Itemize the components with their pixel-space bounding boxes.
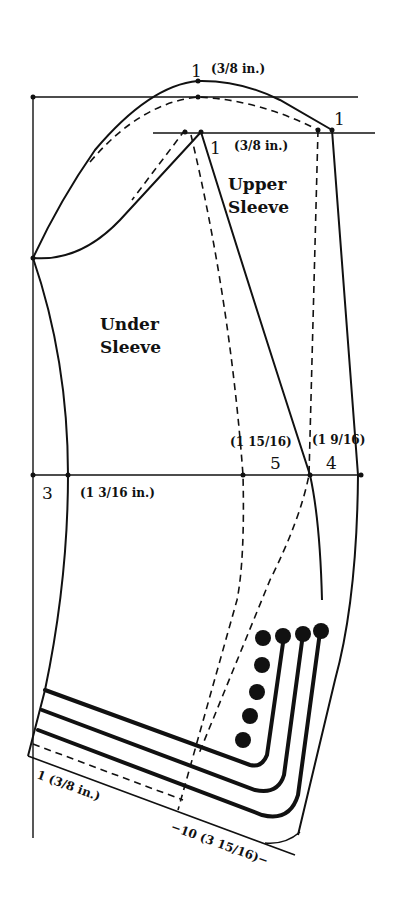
upper-sleeve-label-1: Upper bbox=[228, 174, 287, 194]
elbow-mid-measure: (1 15/16) bbox=[230, 435, 292, 449]
button-dot bbox=[313, 623, 329, 639]
button-dot bbox=[255, 630, 271, 646]
cap-top-number: 1 bbox=[191, 61, 202, 81]
upper-left-number: 1 bbox=[210, 138, 221, 158]
upper-measure: (3/8 in.) bbox=[234, 139, 288, 153]
buttons bbox=[235, 623, 329, 748]
hem-left-measure: 1 (3/8 in.) bbox=[35, 768, 102, 804]
elbow-right-number: 4 bbox=[326, 453, 337, 473]
button-dot bbox=[242, 708, 258, 724]
elbow-right-measure: (1 9/16) bbox=[312, 433, 365, 447]
button-dot bbox=[235, 732, 251, 748]
under-sleeve-label-2: Sleeve bbox=[100, 337, 161, 357]
button-dot bbox=[249, 684, 265, 700]
elbow-left-measure: (1 3/16 in.) bbox=[80, 486, 155, 500]
under-sleeve-label-1: Under bbox=[100, 314, 160, 334]
button-dot bbox=[275, 628, 291, 644]
cap-top-measure: (3/8 in.) bbox=[211, 62, 265, 76]
button-dot bbox=[295, 626, 311, 642]
upper-sleeve-label-2: Sleeve bbox=[228, 197, 289, 217]
pattern-svg: 1 (3/8 in.) 1 (3/8 in.) 1 Upper Sleeve U… bbox=[0, 0, 407, 911]
upper-right-number: 1 bbox=[334, 109, 345, 129]
elbow-mid-number: 5 bbox=[270, 453, 281, 473]
elbow-left-number: 3 bbox=[42, 483, 53, 503]
hem-line bbox=[28, 756, 300, 855]
sleeve-pattern-diagram: 1 (3/8 in.) 1 (3/8 in.) 1 Upper Sleeve U… bbox=[0, 0, 407, 911]
button-dot bbox=[254, 657, 270, 673]
